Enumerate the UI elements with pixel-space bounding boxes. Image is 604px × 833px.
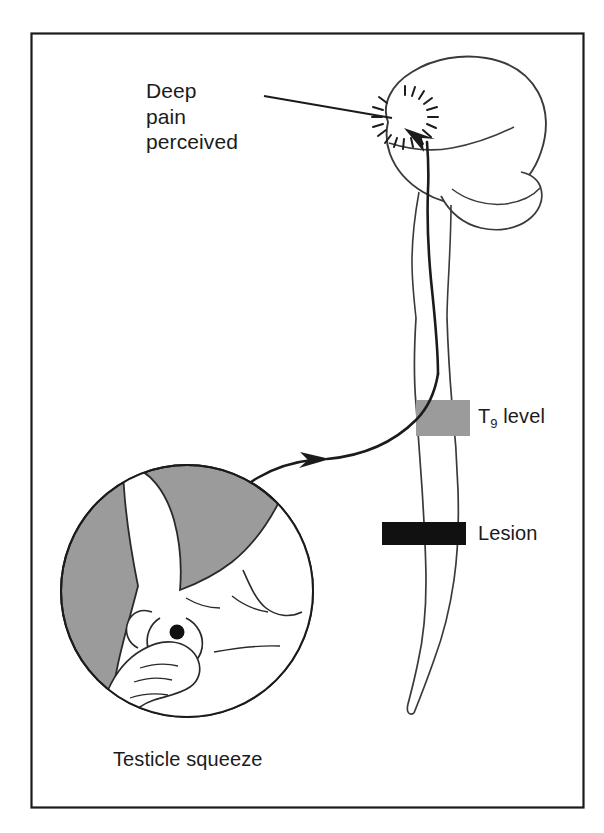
spinal-cord-left-edge <box>407 318 426 714</box>
stimulus-origin-dot <box>170 625 185 640</box>
label-t9-level: T9 level <box>478 404 545 428</box>
brainstem-left-edge <box>412 192 419 318</box>
brain-group <box>372 57 546 318</box>
medical-illustration: Deep pain perceived T9 level Lesion Test… <box>0 0 604 833</box>
t9-level-band <box>437 400 470 436</box>
brainstem-right-edge <box>447 205 451 318</box>
label-testicle-squeeze: Testicle squeeze <box>113 747 262 771</box>
lesion-bar <box>382 522 466 545</box>
t9-suffix: level <box>498 405 545 427</box>
t9-subscript: 9 <box>490 416 497 431</box>
t9-prefix: T <box>478 405 490 427</box>
testicle-squeeze-inset <box>61 440 330 740</box>
spinal-cord-group <box>382 318 470 714</box>
label-deep-pain-perceived: Deep pain perceived <box>146 78 238 155</box>
label-lesion: Lesion <box>478 521 538 545</box>
